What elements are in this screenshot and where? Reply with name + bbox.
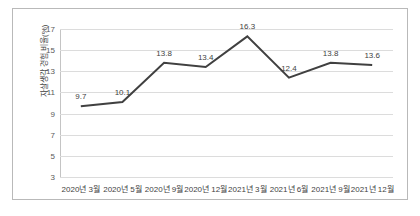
data-point-label: 10.1 bbox=[115, 88, 131, 97]
y-axis-tick-label: 7 bbox=[51, 135, 55, 136]
plot-area: 357911131517 9.710.113.813.416.312.413.8… bbox=[60, 29, 393, 177]
y-axis-tick-label: 11 bbox=[47, 92, 55, 93]
y-axis-tick-label: 13 bbox=[46, 71, 55, 72]
y-axis-tick-label: 9 bbox=[51, 114, 55, 115]
chart-figure: 자살생각 경험 비율(%) 357911131517 9.710.113.813… bbox=[0, 0, 420, 216]
y-axis-tick-label: 5 bbox=[51, 156, 55, 157]
x-axis-tick-label: 2020년 5월 bbox=[103, 183, 141, 194]
gridline: 3 bbox=[60, 177, 393, 178]
x-axis-tick-label: 2021년 12월 bbox=[351, 183, 394, 194]
data-point-label: 9.7 bbox=[75, 92, 86, 101]
x-axis-tick-label: 2020년 3월 bbox=[62, 183, 100, 194]
y-axis-tick-label: 17 bbox=[46, 29, 55, 30]
data-point-label: 16.3 bbox=[240, 22, 256, 31]
data-point-label: 12.4 bbox=[281, 64, 297, 73]
data-point-label: 13.8 bbox=[323, 49, 339, 58]
y-axis-title: 자살생각 경험 비율(%) bbox=[38, 6, 52, 116]
data-point-label: 13.4 bbox=[198, 53, 214, 62]
y-axis-tick-label: 3 bbox=[51, 177, 55, 178]
x-axis-tick-label: 2020년 12월 bbox=[184, 183, 227, 194]
x-axis-tick-label: 2021년 6월 bbox=[270, 183, 308, 194]
series-line-chart bbox=[60, 29, 393, 177]
x-axis-tick-label: 2020년 9월 bbox=[145, 183, 183, 194]
chart-frame: 자살생각 경험 비율(%) 357911131517 9.710.113.813… bbox=[12, 8, 408, 200]
y-axis-tick-label: 15 bbox=[46, 50, 55, 51]
data-point-label: 13.6 bbox=[364, 51, 380, 60]
x-axis-tick-label: 2021년 9월 bbox=[311, 183, 349, 194]
x-axis-tick-label: 2021년 3월 bbox=[228, 183, 266, 194]
data-point-label: 13.8 bbox=[156, 49, 172, 58]
